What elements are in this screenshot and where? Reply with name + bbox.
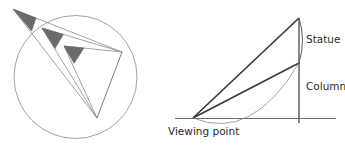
left-diagram xyxy=(13,9,137,139)
viewing-point-label: Viewing point xyxy=(168,125,239,137)
figure-canvas: Statue Column Viewing point xyxy=(0,0,345,148)
geometry-figure: Statue Column Viewing point xyxy=(0,0,345,148)
sightline-to-statue-top xyxy=(193,18,299,118)
statue-label: Statue xyxy=(306,33,340,45)
column-label: Column xyxy=(306,80,345,92)
sightline-to-column-top xyxy=(193,63,299,118)
right-diagram: Statue Column Viewing point xyxy=(168,18,345,137)
ray-oncircle-to-bottom xyxy=(42,28,97,118)
angle-wedge-exterior xyxy=(13,9,36,31)
angle-wedge-interior xyxy=(64,46,84,63)
chord-line xyxy=(97,52,122,118)
